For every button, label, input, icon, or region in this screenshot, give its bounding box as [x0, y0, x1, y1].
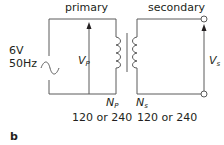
source-frequency-label: 50Hz	[9, 58, 37, 69]
output-terminal-top	[201, 16, 207, 22]
secondary-heading: secondary	[148, 2, 205, 13]
np-subscript: P	[114, 102, 118, 110]
vs-subscript: s	[217, 60, 221, 68]
vp-arrowhead-icon	[87, 22, 92, 29]
vs-symbol: V	[209, 54, 217, 67]
ns-subscript: s	[144, 102, 148, 110]
vs-arrowhead-icon	[202, 24, 207, 31]
primary-coil-icon	[116, 37, 121, 68]
panel-label: b	[10, 131, 18, 142]
vp-subscript: P	[86, 60, 90, 68]
primary-wire-bottom	[49, 68, 116, 94]
secondary-wire-bottom	[137, 68, 201, 94]
primary-turns-label: NP	[106, 97, 118, 110]
np-symbol: N	[106, 96, 114, 109]
secondary-coil-icon	[133, 37, 138, 68]
primary-turns-value: 120 or 240	[72, 112, 132, 123]
source-voltage-label: 6V	[9, 45, 24, 56]
ac-source-icon	[41, 62, 59, 74]
secondary-wire-top	[137, 19, 201, 37]
primary-wire-top	[49, 19, 116, 37]
secondary-turns-label: Ns	[136, 97, 148, 110]
ns-symbol: N	[136, 96, 144, 109]
output-terminal-bottom	[201, 91, 207, 97]
vp-symbol: V	[78, 54, 86, 67]
secondary-voltage-label: Vs	[209, 55, 220, 68]
secondary-turns-value: 120 or 240	[137, 112, 197, 123]
primary-voltage-label: VP	[78, 55, 90, 68]
primary-heading: primary	[65, 2, 108, 13]
